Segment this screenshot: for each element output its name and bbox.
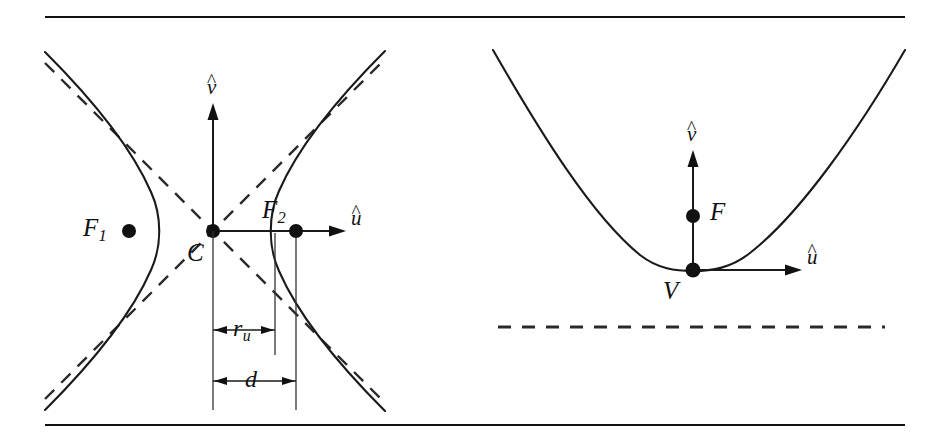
u-axis-arrowhead: [785, 265, 802, 276]
v-axis-label: ^v: [687, 124, 696, 145]
v-axis-arrowhead: [688, 150, 699, 167]
focus-1-label: F1: [83, 215, 107, 245]
dimension-arrow-ru-left: [214, 326, 227, 334]
u-axis-label: ^u: [807, 247, 818, 268]
figure-canvas: [0, 0, 945, 444]
u-axis-label: ^u: [351, 208, 362, 229]
v-axis-label: ^v: [207, 77, 216, 98]
vertex-point-marker: [686, 263, 701, 278]
dimension-arrow-d-left: [214, 377, 227, 385]
dimension-arrow-ru-right: [261, 326, 274, 334]
focus-2-label: F2: [262, 197, 286, 227]
v-axis-arrowhead: [208, 103, 219, 120]
parabola-diagram: [493, 50, 905, 327]
focus-1-point-marker: [122, 224, 136, 238]
parabola-curve: [493, 50, 905, 271]
vertex-label: V: [663, 278, 678, 303]
focus-point-marker: [686, 209, 700, 223]
u-axis-arrowhead: [329, 226, 346, 237]
dimension-label-ru: ru: [233, 316, 251, 344]
focus-label: F: [710, 199, 725, 224]
dimension-label-d: d: [245, 367, 257, 391]
focus-2-point-marker: [289, 224, 303, 238]
figure-container: F1 F2 C ^u ^v ru d F V ^u ^v: [0, 0, 945, 444]
dimension-arrow-d-right: [282, 377, 295, 385]
center-label: C: [187, 240, 204, 265]
